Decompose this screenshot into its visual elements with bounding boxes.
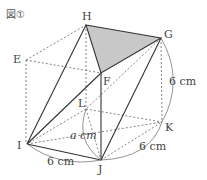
shaded-triangle-hfg <box>86 25 161 73</box>
figure-label: 図① <box>6 9 25 20</box>
vertex-l: L <box>78 97 86 110</box>
vertex-g: G <box>164 28 173 41</box>
vertex-i: I <box>17 139 21 152</box>
label-gk: 6 cm <box>169 75 197 88</box>
vertex-h: H <box>82 10 92 23</box>
label-lj: a cm <box>70 129 97 142</box>
cube-diagram: 図① H G E F L K I J 6 cm 6 cm 6 cm a cm <box>0 0 207 180</box>
vertex-e: E <box>13 53 21 66</box>
vertex-f: F <box>103 75 111 88</box>
label-ij: 6 cm <box>47 155 75 168</box>
label-jk: 6 cm <box>139 140 167 153</box>
vertex-j: J <box>97 163 102 176</box>
vertex-k: K <box>165 121 174 134</box>
